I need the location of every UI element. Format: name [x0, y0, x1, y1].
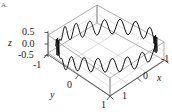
- y-axis-label: y: [50, 90, 54, 100]
- curve-back-half: [58, 19, 156, 48]
- x-tick-label-2: 1: [122, 91, 127, 101]
- x-tick-1: [138, 78, 142, 82]
- x-tick-label-0: -1: [161, 54, 169, 64]
- x-axis-label: x: [157, 73, 161, 83]
- z-tick-label-1: 0.0: [22, 39, 35, 49]
- base-plane-grid: [64, 32, 146, 84]
- y-tick-1: [76, 75, 79, 79]
- z-axis-label: z: [8, 38, 12, 48]
- z-tick-label-2: -0.5: [18, 50, 34, 60]
- figure-3d-plot: A.: [0, 0, 172, 112]
- y-tick-label-0: -1: [33, 60, 41, 70]
- space-curve: [56, 19, 158, 72]
- y-tick-2: [107, 96, 110, 100]
- y-tick-label-2: 1: [101, 100, 106, 110]
- z-axis: [45, 31, 49, 57]
- x-tick-2: [110, 96, 114, 100]
- plot-bounding-box: [48, 5, 164, 96]
- x-tick-label-1: 0: [143, 71, 148, 81]
- z-tick-label-0: 0.5: [22, 27, 35, 37]
- y-tick-label-1: 0: [67, 80, 72, 90]
- y-tick-0: [44, 54, 47, 58]
